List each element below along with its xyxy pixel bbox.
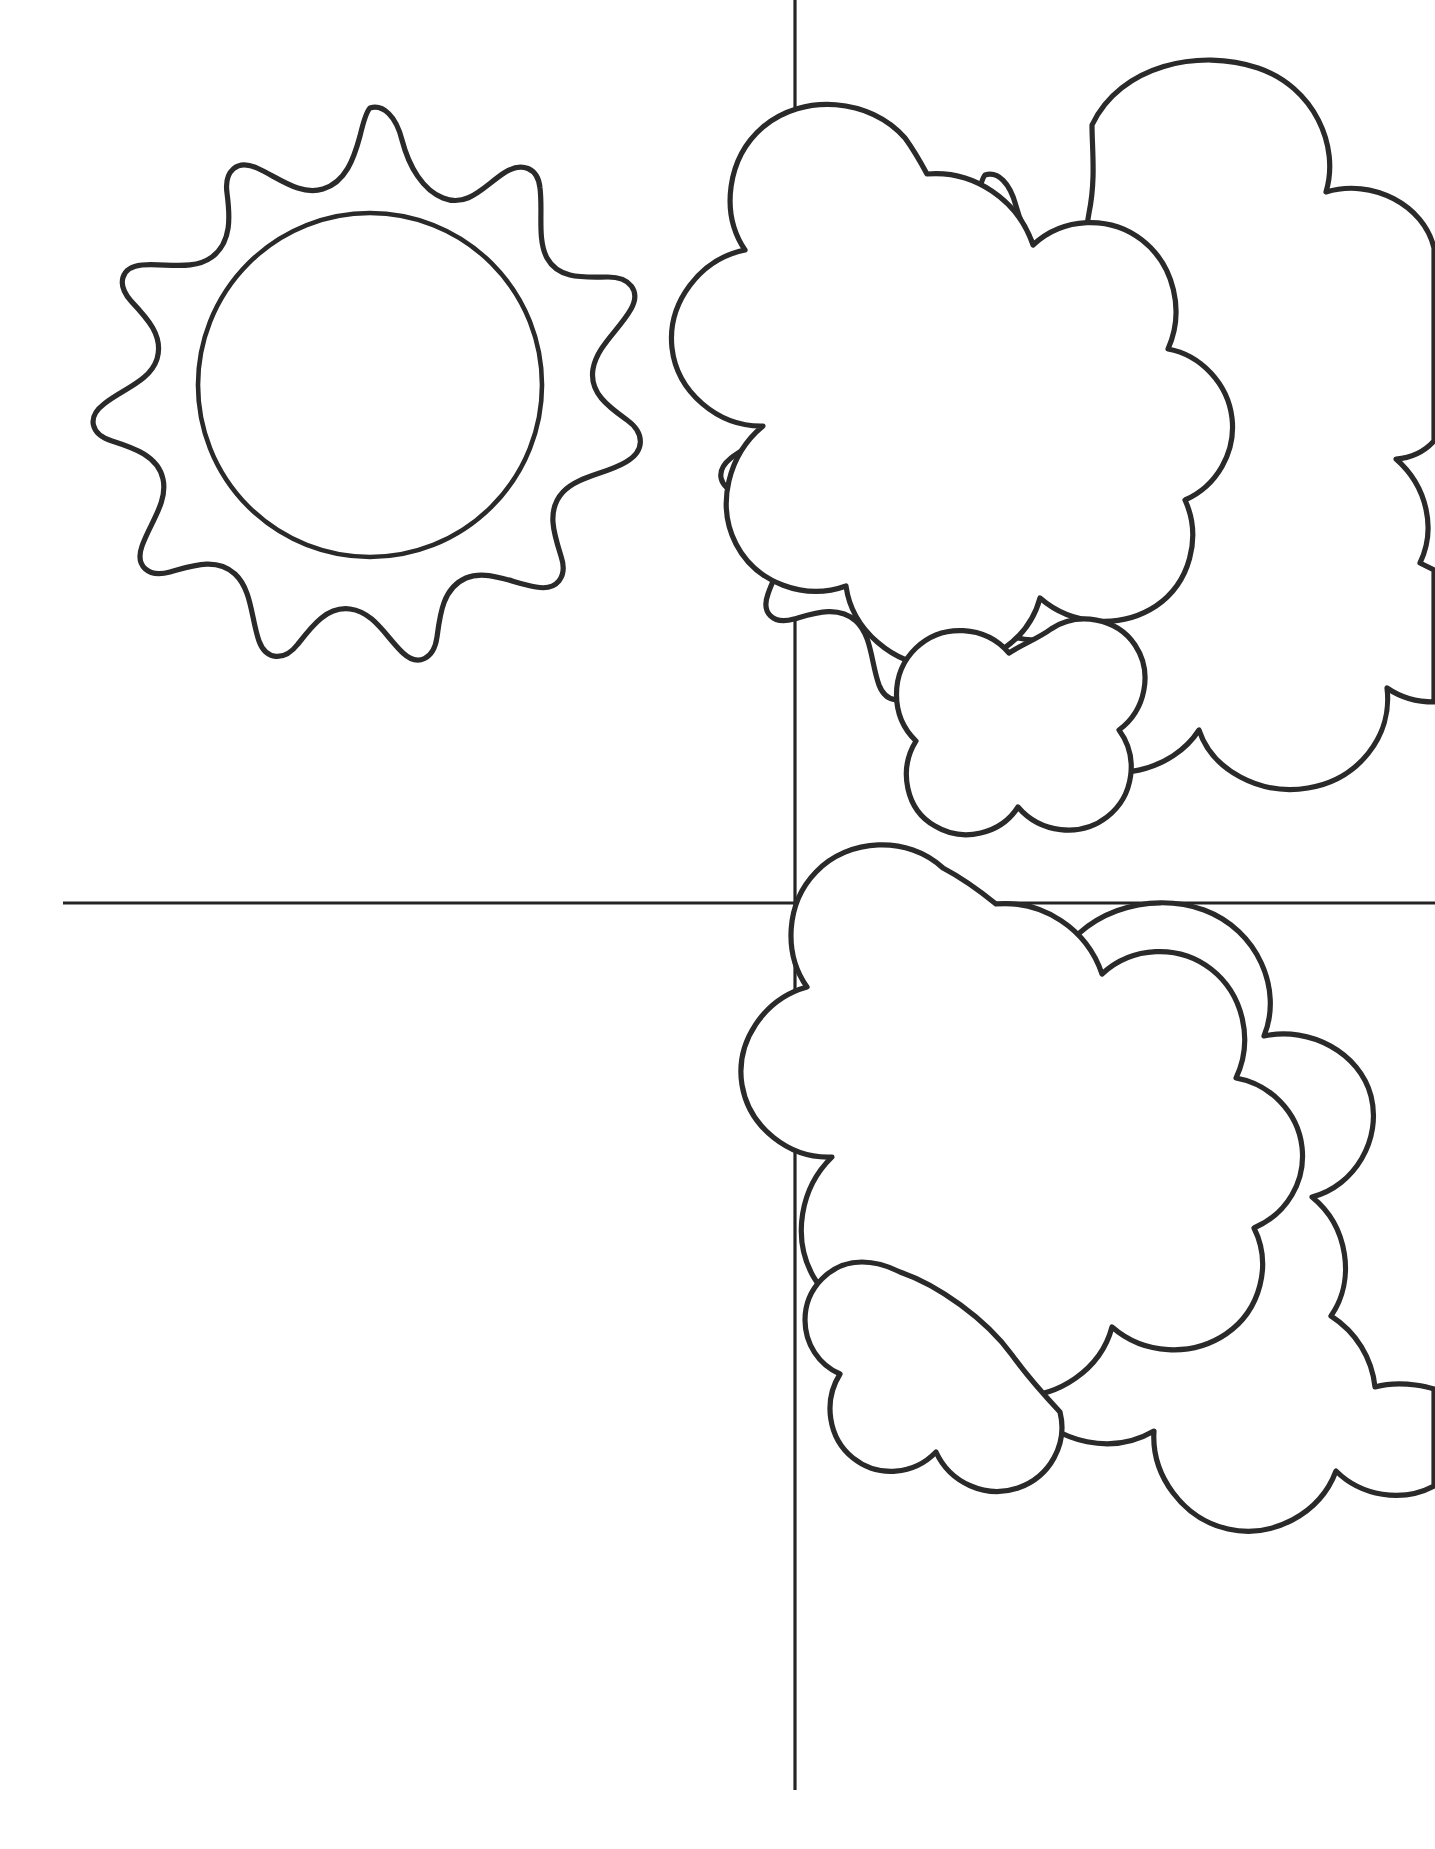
sun-figure [93,107,640,660]
quadrant-bottom-right [741,845,1434,1531]
quadrant-top-right [671,60,1434,835]
worksheet-page [0,0,1435,1849]
quadrant-top-left [93,107,640,660]
artwork-canvas [0,0,1435,1849]
cloud-puff-lower [897,619,1145,835]
sun-inner-circle [198,213,542,557]
